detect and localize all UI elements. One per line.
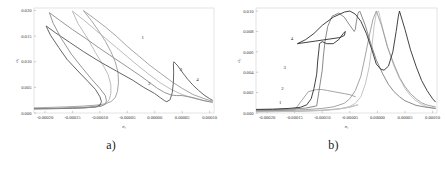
- y-tick-label: 0.006: [243, 50, 254, 55]
- resonance-curve: [256, 11, 435, 110]
- resonance-curve: [34, 13, 212, 109]
- x-tick-label: -0.00015: [286, 115, 303, 120]
- y-axis-title: a₂: [236, 58, 241, 62]
- curve-label: 4: [291, 36, 294, 41]
- resonance-curve: [34, 11, 212, 108]
- x-axis-title: σ₁: [345, 124, 349, 129]
- y-tick-label: 0.015: [21, 34, 32, 39]
- x-tick-label: -0.00010: [314, 115, 331, 120]
- x-tick-label: 0.00005: [398, 115, 414, 120]
- x-tick-label: 0.00000: [147, 115, 163, 120]
- x-tick-label: 0.00010: [202, 115, 218, 120]
- y-tick-label: 0.010: [243, 9, 254, 14]
- y-tick-label: 0.005: [21, 85, 32, 90]
- plot-frame: [256, 8, 437, 113]
- plot-b: 0.0000.0020.0040.0060.0080.010-0.00020-0…: [222, 0, 445, 136]
- resonance-curve: [256, 11, 435, 112]
- y-tick-label: 0.002: [243, 90, 254, 95]
- resonance-curve: [34, 11, 212, 108]
- y-tick-label: 0.004: [243, 70, 254, 75]
- resonance-curve: [256, 11, 435, 111]
- y-tick-label: 0.000: [243, 111, 254, 116]
- x-tick-label: 0.00000: [370, 115, 386, 120]
- x-tick-label: -0.00020: [259, 115, 276, 120]
- y-tick-label: 0.020: [21, 8, 32, 13]
- y-tick-label: 0.000: [21, 111, 32, 116]
- panel-a: 0.0000.0050.0100.0150.020-0.00020-0.0001…: [0, 0, 222, 169]
- resonance-curve: [256, 11, 435, 109]
- curve-label: 2: [281, 86, 284, 91]
- curve-label: 4: [196, 77, 199, 82]
- plot-a: 0.0000.0050.0100.0150.020-0.00020-0.0001…: [0, 0, 222, 136]
- caption-a: a): [0, 138, 222, 153]
- x-tick-label: -0.00005: [342, 115, 359, 120]
- caption-b: b): [222, 138, 445, 153]
- x-tick-label: -0.00020: [37, 115, 54, 120]
- chart-a-svg: 0.0000.0050.0100.0150.020-0.00020-0.0001…: [0, 0, 222, 136]
- y-tick-label: 0.008: [243, 29, 254, 34]
- curves-group: [256, 11, 435, 112]
- x-tick-label: -0.00005: [119, 115, 136, 120]
- curve-label: 1: [279, 100, 282, 105]
- plot-frame: [34, 8, 214, 113]
- panel-b: 0.0000.0020.0040.0060.0080.010-0.00020-0…: [222, 0, 445, 169]
- x-axis-title: σ₁: [122, 124, 126, 129]
- curve-label: 3: [180, 67, 183, 72]
- y-axis-title: a₁: [14, 58, 19, 62]
- curve-label: 1: [141, 35, 144, 40]
- x-tick-label: -0.00015: [64, 115, 81, 120]
- curve-label: 3: [283, 65, 286, 70]
- curves-group: [34, 11, 212, 109]
- y-tick-label: 0.010: [21, 59, 32, 64]
- x-tick-label: -0.00010: [92, 115, 109, 120]
- chart-b-svg: 0.0000.0020.0040.0060.0080.010-0.00020-0…: [222, 0, 445, 136]
- x-tick-label: 0.00010: [425, 115, 441, 120]
- resonance-curves-figure: 0.0000.0050.0100.0150.020-0.00020-0.0001…: [0, 0, 445, 169]
- x-tick-label: 0.00005: [175, 115, 191, 120]
